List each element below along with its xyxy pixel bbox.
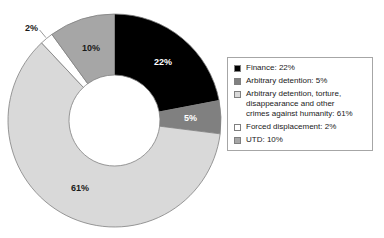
donut-svg: 22%5%61%2%10% (0, 0, 228, 238)
legend-label-utd: UTD: 10% (246, 135, 283, 145)
donut-slice[interactable] (115, 14, 220, 112)
donut-chart-figure: 22%5%61%2%10% Finance: 22% Arbitrary det… (0, 0, 384, 238)
legend-label-arbitrary-detention: Arbitrary detention: 5% (246, 76, 327, 86)
legend-swatch-forced-displacement (234, 124, 241, 131)
legend-swatch-arbitrary-detention (234, 78, 241, 85)
leader-line-group (40, 30, 46, 38)
leader-line (40, 30, 46, 38)
legend-swatch-utd (234, 137, 241, 144)
chart-plot-area: 22%5%61%2%10% (0, 0, 228, 238)
legend-label-crimes-against-humanity: Arbitrary detention, torture, disappeara… (246, 89, 353, 119)
legend-item-utd[interactable]: UTD: 10% (234, 135, 368, 145)
legend-swatch-crimes-against-humanity (234, 91, 241, 98)
legend-item-forced-displacement[interactable]: Forced displacement: 2% (234, 122, 368, 132)
legend-item-arbitrary-detention[interactable]: Arbitrary detention: 5% (234, 76, 368, 86)
donut-slice-group (8, 14, 221, 227)
legend-label-forced-displacement: Forced displacement: 2% (246, 122, 336, 132)
legend-item-crimes-against-humanity[interactable]: Arbitrary detention, torture, disappeara… (234, 89, 368, 119)
slice-data-label: 2% (25, 23, 38, 33)
legend-label-finance: Finance: 22% (246, 63, 295, 73)
legend-swatch-finance (234, 65, 241, 72)
chart-legend: Finance: 22% Arbitrary detention: 5% Arb… (227, 57, 373, 151)
legend-item-finance[interactable]: Finance: 22% (234, 63, 368, 73)
